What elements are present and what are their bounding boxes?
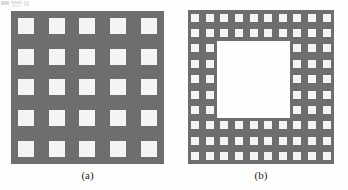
panel-b-unit-cell [261, 25, 276, 40]
panel-a-square [110, 18, 126, 34]
panel-b-square [220, 152, 228, 160]
panel-b-unit-cell [188, 25, 203, 40]
panel-b-unit-cell [203, 102, 218, 117]
panel-b-void-cell [246, 102, 261, 117]
panel-b-unit-cell [290, 56, 305, 71]
panel-b-unit-cell [290, 118, 305, 133]
panel-b-unit-cell [261, 149, 276, 164]
panel-b-square [323, 60, 331, 68]
panel-b-void-cell [276, 41, 291, 56]
panel-b-square [308, 152, 316, 160]
panel-b-square [264, 152, 272, 160]
panel-b-unit-cell [305, 118, 320, 133]
panel-b-unit-cell [217, 133, 232, 148]
panel-b-square [220, 29, 228, 37]
panel-b-square [250, 121, 258, 129]
panel-b-square [191, 121, 199, 129]
panel-b-unit-cell [188, 56, 203, 71]
panel-b-square [308, 106, 316, 114]
panel-b-caption: (b) [188, 169, 334, 181]
panel-b-void-cell [261, 56, 276, 71]
panel-b-square [323, 14, 331, 22]
panel-b-square [293, 121, 301, 129]
panel-b-unit-cell [305, 41, 320, 56]
panel-b-square [250, 14, 258, 22]
panel-b-square [279, 152, 287, 160]
panel-b-unit-cell [246, 10, 261, 25]
panel-a-square [79, 79, 95, 95]
panel-b-unit-cell [217, 10, 232, 25]
panel-b-square [308, 91, 316, 99]
panel-b-square [279, 137, 287, 145]
panel-b-unit-cell [319, 149, 334, 164]
panel-a-square [79, 141, 95, 157]
panel-b-square [206, 29, 214, 37]
panel-b-square [206, 106, 214, 114]
panel-b-void-cell [261, 102, 276, 117]
panel-a-square [18, 141, 34, 157]
panel-b-unit-cell [319, 56, 334, 71]
panel-b-unit-cell [246, 25, 261, 40]
panel-b-square [191, 91, 199, 99]
panel-a-square [141, 49, 157, 65]
panel-b-unit-cell [232, 10, 247, 25]
panel-b-unit-cell [232, 25, 247, 40]
panel-b-unit-cell [188, 87, 203, 102]
panel-a-square [49, 18, 65, 34]
panel-b-square [235, 14, 243, 22]
panel-b-square [220, 137, 228, 145]
panel-b-square [293, 75, 301, 83]
panel-b-unit-cell [217, 118, 232, 133]
panel-b-square [308, 44, 316, 52]
panel-b-void-cell [276, 72, 291, 87]
panel-b-square [191, 60, 199, 68]
panel-b-square [191, 137, 199, 145]
panel-b-square [323, 44, 331, 52]
panel-b-square [191, 75, 199, 83]
panel-b-unit-cell [261, 133, 276, 148]
panel-b-unit-cell [246, 133, 261, 148]
panel-b-unit-cell [203, 87, 218, 102]
panel-b-unit-cell [276, 10, 291, 25]
panel-b-unit-cell [261, 10, 276, 25]
panel-b-square [206, 91, 214, 99]
panel-b-unit-cell [290, 149, 305, 164]
panel-b-square [191, 106, 199, 114]
panel-b-unit-cell [246, 149, 261, 164]
panel-b-unit-cell [203, 56, 218, 71]
panel-a-square [79, 18, 95, 34]
panel-b-unit-cell [290, 41, 305, 56]
panel-b-void-cell [217, 72, 232, 87]
panel-a-square-grid [11, 11, 164, 164]
panel-b-square [206, 44, 214, 52]
panel-b-unit-cell [290, 102, 305, 117]
panel-b-void-cell [261, 41, 276, 56]
panel-b-unit-cell [290, 133, 305, 148]
panel-b-unit-cell [203, 25, 218, 40]
panel-b-unit-cell [319, 41, 334, 56]
panel-b-square [323, 152, 331, 160]
panel-b-unit-cell [290, 25, 305, 40]
panel-b-unit-cell [188, 118, 203, 133]
panel-b-unit-cell [305, 56, 320, 71]
panel-b-unit-cell [261, 118, 276, 133]
panel-b-void-cell [217, 102, 232, 117]
panel-b-void-cell [261, 72, 276, 87]
panel-b-unit-cell [188, 10, 203, 25]
panel-b-square [220, 14, 228, 22]
panel-b-void-cell [276, 56, 291, 71]
panel-a-square [18, 18, 34, 34]
panel-b-void-cell [232, 56, 247, 71]
panel-b-unit-cell [188, 41, 203, 56]
panel-b-square [308, 29, 316, 37]
panel-b-unit-cell [319, 102, 334, 117]
panel-b-square [323, 29, 331, 37]
panel-b-unit-cell [203, 41, 218, 56]
panel-a-square [110, 49, 126, 65]
panel-a-square [18, 79, 34, 95]
panel-b-unit-cell [232, 149, 247, 164]
panel-a-square [141, 110, 157, 126]
panel-b-void-cell [217, 41, 232, 56]
panel-b-unit-cell [290, 87, 305, 102]
panel-b-square [293, 14, 301, 22]
